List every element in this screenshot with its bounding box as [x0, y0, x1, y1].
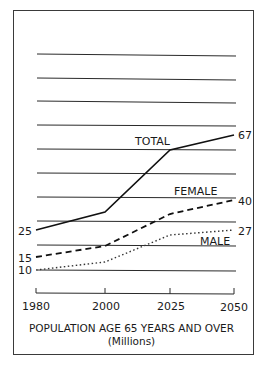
start-value-total: 25	[18, 225, 32, 238]
chart-subtitle: (Millions)	[0, 335, 263, 347]
x-tick-2000: 2000	[92, 300, 120, 313]
series-label-total: TOTAL	[134, 135, 171, 148]
x-tick-1980: 1980	[22, 300, 50, 313]
end-value-female: 40	[238, 195, 252, 208]
series-label-male: MALE	[200, 235, 230, 248]
end-value-male: 27	[238, 225, 252, 238]
line-chart: TOTAL FEMALE MALE 25 15 10 67 40 27 1980…	[0, 0, 263, 366]
end-value-total: 67	[238, 129, 252, 142]
x-tick-2025: 2025	[157, 300, 185, 313]
x-axis	[36, 288, 234, 294]
series-female-line	[36, 200, 234, 257]
x-tick-2050: 2050	[220, 301, 248, 314]
series-label-female: FEMALE	[174, 185, 217, 198]
start-value-male: 10	[18, 264, 32, 277]
chart-title: POPULATION AGE 65 YEARS AND OVER	[0, 322, 263, 334]
